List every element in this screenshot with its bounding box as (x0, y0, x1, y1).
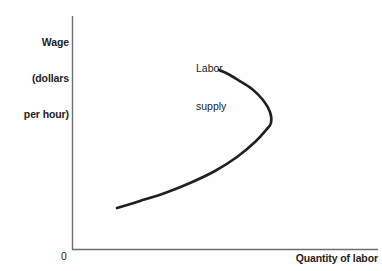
labor-supply-label: Labor supply (196, 37, 226, 137)
x-axis-title: Quantity of labor (296, 252, 378, 264)
origin-label: 0 (61, 250, 67, 262)
y-axis-title-line-3: per hour) (24, 108, 69, 120)
y-axis-title: Wage (dollars per hour) (24, 12, 69, 144)
labor-supply-figure: Wage (dollars per hour) 0 Quantity of la… (0, 0, 382, 271)
labor-supply-label-line-2: supply (196, 100, 226, 113)
y-axis-title-line-2: (dollars (24, 72, 69, 84)
y-axis-title-line-1: Wage (24, 36, 69, 48)
labor-supply-label-line-1: Labor (196, 62, 226, 75)
labor-supply-curve (117, 70, 271, 208)
